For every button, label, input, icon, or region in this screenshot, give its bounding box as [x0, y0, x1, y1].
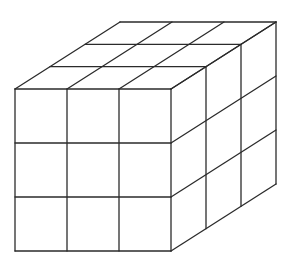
right-depth-edge: [171, 22, 276, 89]
front-face: [15, 89, 171, 251]
right-face: [171, 22, 276, 251]
top-depth-edge: [15, 22, 120, 89]
right-depth-edge: [171, 130, 276, 197]
right-depth-edge: [171, 184, 276, 251]
top-depth-edge: [119, 22, 224, 89]
top-face: [15, 22, 276, 89]
cube-diagram: [0, 0, 291, 259]
top-depth-edge: [67, 22, 172, 89]
cube-drawing: [0, 0, 291, 259]
right-depth-edge: [171, 76, 276, 143]
